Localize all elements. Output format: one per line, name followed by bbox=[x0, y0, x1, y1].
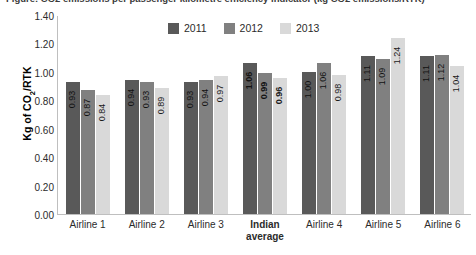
bar[interactable]: 1.00 bbox=[302, 72, 316, 214]
bar-value-label: 1.00 bbox=[304, 81, 313, 99]
bar[interactable]: 0.94 bbox=[199, 80, 213, 214]
bar-value-label: 1.11 bbox=[422, 65, 431, 82]
bar[interactable]: 0.93 bbox=[184, 82, 198, 214]
x-tick-label: Airline 5 bbox=[354, 219, 413, 243]
bar[interactable]: 0.98 bbox=[332, 75, 346, 214]
bar-value-label: 0.93 bbox=[142, 91, 151, 109]
bar-group: 0.930.870.84 bbox=[58, 16, 117, 214]
bar[interactable]: 1.09 bbox=[376, 59, 390, 214]
bar-group: 0.940.930.89 bbox=[117, 16, 176, 214]
bar-value-label: 1.06 bbox=[245, 72, 254, 90]
x-tick-label-line: average bbox=[235, 231, 294, 243]
y-tick-label: 0.60 bbox=[20, 124, 54, 135]
bar[interactable]: 0.84 bbox=[96, 95, 110, 214]
bar-value-label: 1.24 bbox=[393, 46, 402, 64]
y-tick-label: 1.00 bbox=[20, 67, 54, 78]
y-tick-label: 0.20 bbox=[20, 181, 54, 192]
x-tick-label: Airline 6 bbox=[413, 219, 472, 243]
y-tick-label: 0.40 bbox=[20, 153, 54, 164]
chart-title: Figure: CO2 emissions per passenger kilo… bbox=[6, 0, 476, 5]
bar-value-label: 1.12 bbox=[437, 64, 446, 82]
bar-value-label: 0.96 bbox=[275, 86, 284, 104]
bar-value-label: 0.84 bbox=[98, 103, 107, 121]
bar-value-label: 0.97 bbox=[216, 85, 225, 103]
bar-value-label: 0.94 bbox=[127, 89, 136, 107]
bar[interactable]: 0.93 bbox=[140, 82, 154, 214]
x-tick-label-line: Airline 2 bbox=[129, 219, 165, 230]
x-tick-label: Indianaverage bbox=[235, 219, 294, 243]
chart-title-clipped: Figure: CO2 emissions per passenger kilo… bbox=[6, 0, 476, 5]
x-axis-labels: Airline 1Airline 2Airline 3Indianaverage… bbox=[58, 219, 472, 243]
y-tick-label: 1.40 bbox=[20, 11, 54, 22]
bar-value-label: 1.11 bbox=[363, 65, 372, 82]
bar-value-label: 1.04 bbox=[452, 75, 461, 93]
bar-value-label: 1.06 bbox=[319, 72, 328, 90]
y-tick-label: 1.20 bbox=[20, 39, 54, 50]
x-tick-label-line: Airline 3 bbox=[188, 219, 224, 230]
bar[interactable]: 1.06 bbox=[317, 63, 331, 214]
y-axis-ticks: 0.000.200.400.600.801.001.201.40 bbox=[20, 16, 54, 216]
bar-group: 0.930.940.97 bbox=[176, 16, 235, 214]
bar[interactable]: 1.24 bbox=[391, 38, 405, 214]
x-tick-label: Airline 4 bbox=[295, 219, 354, 243]
bar[interactable]: 1.11 bbox=[420, 56, 434, 214]
bar[interactable]: 1.04 bbox=[450, 66, 464, 214]
plot-area: 0.930.870.840.940.930.890.930.940.971.06… bbox=[57, 16, 471, 215]
bar-group: 1.060.990.96 bbox=[235, 16, 294, 214]
x-tick-label-line: Airline 1 bbox=[70, 219, 106, 230]
bar[interactable]: 0.87 bbox=[81, 90, 95, 214]
bar-value-label: 0.99 bbox=[260, 82, 269, 100]
bar-value-label: 0.93 bbox=[186, 91, 195, 109]
bar[interactable]: 0.99 bbox=[258, 73, 272, 214]
bar-value-label: 0.89 bbox=[157, 96, 166, 114]
bar[interactable]: 0.96 bbox=[273, 78, 287, 214]
x-tick-label-line: Airline 4 bbox=[306, 219, 342, 230]
y-tick-label: 0.80 bbox=[20, 96, 54, 107]
y-tick-label: 0.00 bbox=[20, 210, 54, 221]
bar-value-label: 1.09 bbox=[378, 68, 387, 86]
chart-figure: Figure: CO2 emissions per passenger kilo… bbox=[0, 0, 476, 255]
x-tick-label-line: Airline 6 bbox=[424, 219, 460, 230]
bar-value-label: 0.94 bbox=[201, 89, 210, 107]
x-tick-label-line: Airline 5 bbox=[365, 219, 401, 230]
bar[interactable]: 0.97 bbox=[214, 76, 228, 214]
bar[interactable]: 1.11 bbox=[361, 56, 375, 214]
bar-value-label: 0.98 bbox=[334, 83, 343, 101]
bar-group: 1.001.060.98 bbox=[294, 16, 353, 214]
bar-value-label: 0.87 bbox=[83, 99, 92, 117]
bar-group: 1.111.121.04 bbox=[412, 16, 471, 214]
x-tick-label: Airline 1 bbox=[58, 219, 117, 243]
bar[interactable]: 1.12 bbox=[435, 55, 449, 214]
bar-group: 1.111.091.24 bbox=[353, 16, 412, 214]
x-axis-line bbox=[57, 214, 471, 215]
bar[interactable]: 1.06 bbox=[243, 63, 257, 214]
bar-value-label: 0.93 bbox=[68, 91, 77, 109]
bar-groups: 0.930.870.840.940.930.890.930.940.971.06… bbox=[58, 16, 471, 214]
x-tick-label-line: Indian bbox=[250, 219, 279, 230]
x-tick-label: Airline 3 bbox=[176, 219, 235, 243]
bar[interactable]: 0.93 bbox=[66, 82, 80, 214]
bar[interactable]: 0.94 bbox=[125, 80, 139, 214]
x-tick-label: Airline 2 bbox=[117, 219, 176, 243]
bar[interactable]: 0.89 bbox=[155, 88, 169, 215]
